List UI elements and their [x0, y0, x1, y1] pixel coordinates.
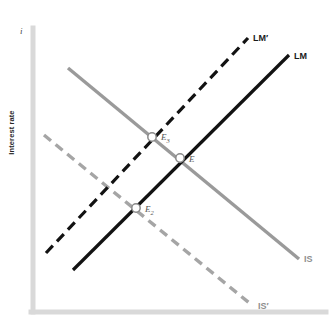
y-axis-symbol: i [20, 26, 23, 36]
equilibrium-label-e3-subscript: 3 [166, 137, 171, 144]
equilibrium-marker-e3[interactable] [148, 133, 156, 141]
curve-label-lm: LM [294, 51, 307, 61]
islm-figure: i LM′ LM IS IS′ E3 E [0, 0, 332, 336]
curve-label-is: IS [304, 254, 313, 264]
equilibrium-label-e3: E3 [160, 132, 171, 144]
y-axis-title: Interest rate [7, 97, 16, 169]
equilibrium-marker-e[interactable] [176, 154, 184, 162]
equilibrium-label-e: E [188, 154, 195, 164]
equilibrium-label-e2: E2 [144, 204, 155, 216]
equilibrium-marker-e2[interactable] [132, 204, 140, 212]
curves-group [44, 38, 299, 306]
curve-is-prime[interactable] [44, 135, 253, 306]
plot-canvas: i LM′ LM IS IS′ E3 E [0, 0, 332, 336]
curve-labels-group: LM′ LM IS IS′ [253, 33, 313, 311]
equilibrium-label-e-base: E [188, 154, 195, 164]
curve-is[interactable] [68, 68, 299, 259]
equilibrium-label-e2-subscript: 2 [151, 209, 155, 216]
curve-lm-prime[interactable] [46, 38, 248, 253]
curve-label-is-prime: IS′ [258, 301, 269, 311]
curve-label-lm-prime: LM′ [253, 33, 268, 43]
equilibrium-markers-group [132, 133, 184, 212]
